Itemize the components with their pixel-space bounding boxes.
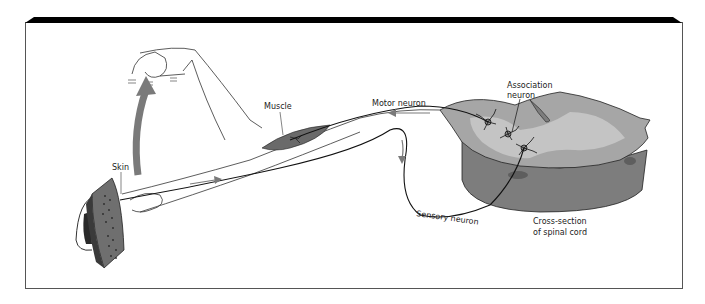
label-association-line1: Association xyxy=(507,81,553,90)
spinal-cord xyxy=(440,92,650,212)
label-muscle: Muscle xyxy=(264,102,292,111)
label-association-line2: neuron xyxy=(507,91,535,100)
label-skin: Skin xyxy=(112,163,129,172)
cord-dark-spot-right xyxy=(624,157,636,165)
label-cord-line1: Cross-section xyxy=(533,217,587,226)
frame-top-bar xyxy=(25,17,682,23)
label-cord-line2: of spinal cord xyxy=(533,228,587,237)
label-motor-neuron: Motor neuron xyxy=(372,99,426,108)
reflex-arc-diagram: Association neuron Muscle Motor neuron S… xyxy=(0,0,705,304)
